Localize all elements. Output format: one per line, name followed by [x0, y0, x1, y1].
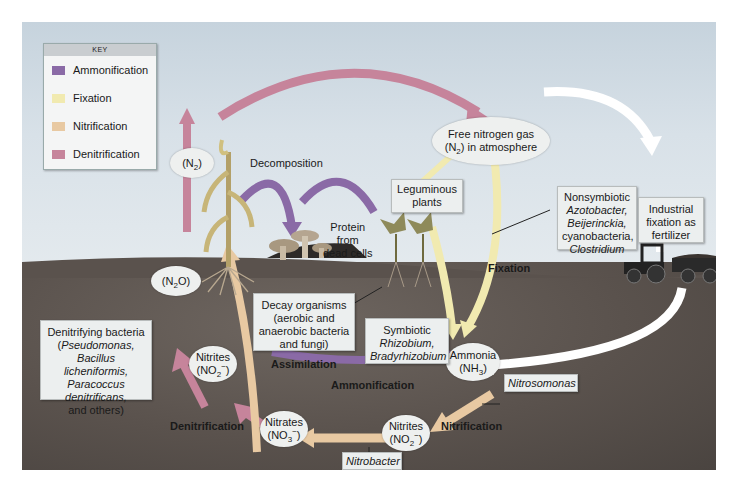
legend-item-nitrification: Nitrification [52, 120, 127, 132]
arrow-ammonia-to-nitrites [447, 394, 492, 422]
legend-label: Fixation [73, 92, 112, 104]
legend-label: Denitrification [73, 148, 140, 160]
label-denitrification: Denitrification [170, 420, 244, 432]
box-industrial-fixation: Industrialfixation asfertilizer [638, 197, 704, 243]
nitrification-swatch [52, 122, 65, 131]
label-fixation: Fixation [488, 262, 530, 274]
legend-key: KEY Ammonification Fixation Nitrificatio… [43, 43, 157, 170]
nitrogen-cycle-diagram: KEY Ammonification Fixation Nitrificatio… [22, 22, 716, 470]
box-denitrifying-bacteria: Denitrifying bacteria (Pseudomonas, Baci… [40, 320, 152, 400]
node-free-nitrogen: Free nitrogen gas (N2) in atmosphere [432, 117, 550, 165]
legend-label: Nitrification [73, 120, 127, 132]
arrow-fertilizer-to-ammonia [492, 288, 682, 365]
legend-item-ammonification: Ammonification [52, 64, 148, 76]
legend-item-denitrification: Denitrification [52, 148, 140, 160]
box-symbiotic: Symbiotic Rhizobium, Bradyrhizobium [365, 318, 449, 364]
box-leguminous-plants: Leguminousplants [391, 179, 463, 213]
arrow-n2-to-atmosphere [220, 73, 478, 117]
arrow-to-industrial [544, 92, 650, 140]
node-n2o: (N2O) [151, 266, 201, 296]
label-ammonification: Ammonification [331, 379, 414, 391]
ammonification-swatch [52, 66, 65, 75]
legend-item-fixation: Fixation [52, 92, 112, 104]
box-nitrosomonas: Nitrosomonas [504, 374, 578, 392]
arrow-decomposition-2 [302, 182, 374, 212]
node-nitrates: Nitrates (NO3−) [260, 411, 308, 447]
node-nitrites-left: Nitrites (NO2−) [189, 346, 237, 382]
label-protein-from-dead-cells: Proteinfromdead cells [323, 221, 373, 260]
label-decomposition: Decomposition [250, 157, 323, 169]
node-ammonia: Ammonia (NH3) [446, 343, 500, 381]
fixation-swatch [52, 94, 65, 103]
ground-surface [22, 257, 716, 278]
label-nitrification: Nitrification [441, 420, 502, 432]
label-assimilation: Assimilation [271, 358, 336, 370]
box-nonsymbiotic: Nonsymbiotic Azotobacter, Beijerinckia, … [557, 186, 637, 250]
box-decay-organisms: Decay organisms(aerobic andanaerobic bac… [253, 293, 355, 351]
box-nitrobacter: Nitrobacter [342, 452, 402, 470]
node-n2-top: (N2) [170, 148, 214, 178]
denitrification-swatch [52, 150, 65, 159]
legend-title: KEY [44, 44, 156, 56]
node-nitrites-right: Nitrites (NO2−) [382, 415, 430, 451]
legend-label: Ammonification [73, 64, 148, 76]
